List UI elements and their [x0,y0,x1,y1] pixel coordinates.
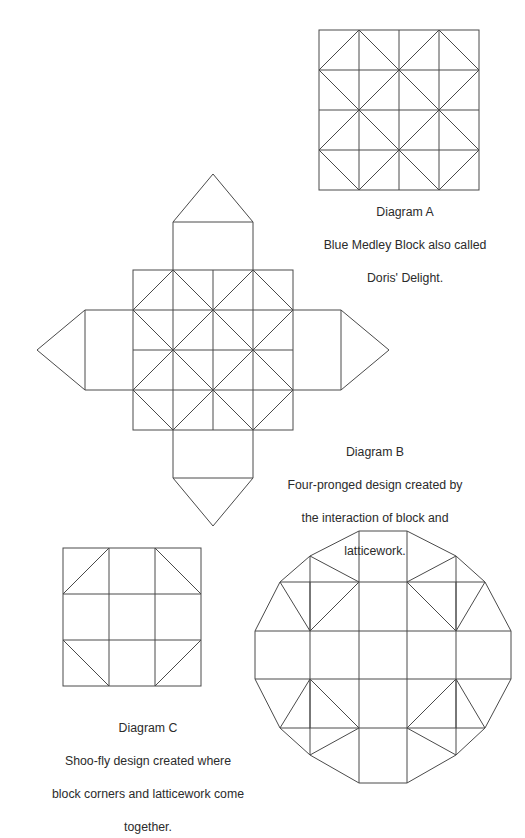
tri-tl-b [359,30,399,70]
tri-tr-b [213,270,253,310]
tri-tr-c [439,70,479,110]
diagram-b-caption-title: Diagram B [250,444,500,460]
fan-br-upper [456,679,485,728]
tri-br-c [253,350,293,390]
corner-tri-tl [63,548,109,594]
tri-tr-c [253,310,293,350]
tri-tl-c [133,310,173,350]
tri-bl-b [173,390,213,430]
tri-br-c [439,110,479,150]
diagram-d-svg [252,528,514,786]
tri-br-b [399,150,439,190]
diagram-c-caption: Diagram C Shoo-fly design created where … [8,704,288,838]
block-outline [63,548,201,686]
corner-tri-tr [155,548,201,594]
inner-corner-tri-br [407,679,456,728]
fan-tr-lower [456,582,485,631]
tri-bl-c [133,350,173,390]
diagram-b-caption-line2: the interaction of block and [250,510,500,526]
tri-tr-b [399,30,439,70]
tri-bl-c [319,110,359,150]
corner-tri-bl [63,640,109,686]
fan-tr-upper [407,556,456,582]
diagram-b-caption-line1: Four-pronged design created by [250,477,500,493]
diagram-c-caption-line2: block corners and latticework come [8,786,288,802]
corner-tri-br [155,640,201,686]
tri-br-a [253,390,293,430]
tri-tr-a [439,30,479,70]
fan-tl-upper [310,556,359,582]
diagram-d-figure [252,528,514,786]
diagram-c-caption-line3: together. [8,819,288,835]
tri-tl-c [319,70,359,110]
inner-corner-tri-bl [310,679,359,728]
inner-corner-tri-tl [310,582,359,631]
tri-tl-a [319,30,359,70]
tri-tl-b [173,270,213,310]
diagram-c-caption-line1: Shoo-fly design created where [8,753,288,769]
inner-block-outline [310,582,456,728]
diagram-c-figure [62,547,204,689]
tri-bl-a [133,390,173,430]
tri-br-b [213,390,253,430]
tri-tr-a [253,270,293,310]
fan-tl-lower [280,582,310,631]
fan-br-lower [407,728,456,755]
inner-corner-tri-tr [407,582,456,631]
diagram-c-svg [62,547,204,689]
fan-bl-upper [280,679,310,728]
outer-twelve-sided-outline [255,531,511,783]
fan-bl-lower [310,728,359,755]
tri-tl-a [133,270,173,310]
diagram-c-caption-title: Diagram C [8,720,288,736]
tri-br-a [439,150,479,190]
